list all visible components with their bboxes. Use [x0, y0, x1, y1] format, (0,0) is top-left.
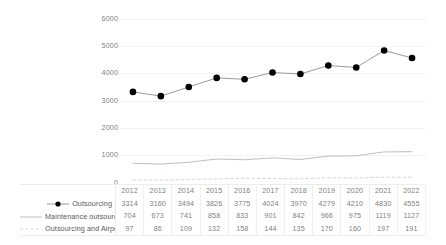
table-cell: 833	[228, 210, 256, 223]
table-row: Outsourcing33143160349438263775402439704…	[20, 198, 426, 211]
data-point-0-1	[158, 93, 165, 100]
table-cell: 191	[397, 223, 425, 236]
table-cell: 975	[341, 210, 369, 223]
table-cell: 842	[285, 210, 313, 223]
legend-label-0: Outsourcing	[72, 200, 112, 208]
table-cell: 741	[172, 210, 200, 223]
series-line-2	[133, 177, 412, 180]
table-cell: 158	[228, 223, 256, 236]
table-cell: 966	[313, 210, 341, 223]
legend-label-2: Outsourcing and Airports	[45, 225, 116, 233]
table-cell: 97	[116, 223, 144, 236]
table-cell: 901	[256, 210, 284, 223]
data-point-0-9	[381, 47, 388, 54]
table-cell: 135	[285, 223, 313, 236]
data-point-0-5	[269, 69, 276, 76]
table-cell: 109	[172, 223, 200, 236]
table-cell: 3314	[116, 198, 144, 211]
table-cell: 197	[369, 223, 397, 236]
data-point-0-8	[353, 64, 360, 71]
series-line-1	[133, 152, 412, 164]
table-header-2013: 2013	[144, 185, 172, 198]
table-header-2017: 2017	[256, 185, 284, 198]
table-cell: 858	[200, 210, 228, 223]
table-cell: 3775	[228, 198, 256, 211]
table-header-2022: 2022	[397, 185, 425, 198]
table-cell: 3826	[200, 198, 228, 211]
data-table: 2012201320142015201620172018201920202021…	[20, 184, 426, 236]
table-cell: 3160	[144, 198, 172, 211]
table-header-2012: 2012	[116, 185, 144, 198]
table-cell: 1127	[397, 210, 425, 223]
table-header-2016: 2016	[228, 185, 256, 198]
table-header-2021: 2021	[369, 185, 397, 198]
table-cell: 3494	[172, 198, 200, 211]
legend-item-0[interactable]: Outsourcing	[20, 198, 116, 211]
table-corner-cell	[20, 185, 116, 198]
table-row: Maintenance outsourcing70467374185883390…	[20, 210, 426, 223]
legend-marker-icon-0	[47, 200, 69, 208]
legend-label-1: Maintenance outsourcing	[45, 213, 116, 221]
table-header-2020: 2020	[341, 185, 369, 198]
table-header-2015: 2015	[200, 185, 228, 198]
data-point-0-7	[325, 62, 332, 69]
table-header-2019: 2019	[313, 185, 341, 198]
table-cell: 4024	[256, 198, 284, 211]
table-cell: 170	[313, 223, 341, 236]
legend-item-1[interactable]: Maintenance outsourcing	[20, 210, 116, 223]
table-cell: 4210	[341, 198, 369, 211]
table-cell: 132	[200, 223, 228, 236]
data-point-0-4	[241, 76, 248, 83]
data-point-0-2	[185, 84, 192, 91]
table-cell: 86	[144, 223, 172, 236]
data-point-0-0	[130, 89, 137, 96]
legend-marker-icon-2	[20, 225, 42, 233]
table-cell: 4279	[313, 198, 341, 211]
table-cell: 3970	[285, 198, 313, 211]
table-cell: 673	[144, 210, 172, 223]
data-point-0-6	[297, 71, 304, 78]
line-chart-with-data-table: 0100020003000400050006000 20122013201420…	[0, 0, 446, 245]
table-cell: 4830	[369, 198, 397, 211]
table-cell: 704	[116, 210, 144, 223]
data-table-area: 2012201320142015201620172018201920202021…	[0, 184, 446, 245]
table-row: Outsourcing and Airports9786109132158144…	[20, 223, 426, 236]
legend-item-2[interactable]: Outsourcing and Airports	[20, 223, 116, 236]
data-point-0-10	[409, 55, 416, 62]
legend-marker-icon-1	[20, 213, 42, 221]
plot-area: 0100020003000400050006000	[0, 0, 446, 186]
table-header-2014: 2014	[172, 185, 200, 198]
table-cell: 144	[256, 223, 284, 236]
data-table-body: 2012201320142015201620172018201920202021…	[20, 185, 426, 236]
series-layer	[0, 0, 446, 186]
table-header-2018: 2018	[285, 185, 313, 198]
table-cell: 160	[341, 223, 369, 236]
data-point-0-3	[213, 75, 220, 82]
table-cell: 1119	[369, 210, 397, 223]
table-cell: 4555	[397, 198, 425, 211]
table-header-row: 2012201320142015201620172018201920202021…	[20, 185, 426, 198]
